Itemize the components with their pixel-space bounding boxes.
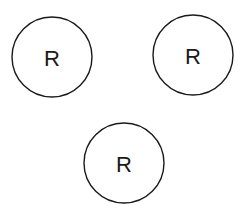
node-label-bottom: R xyxy=(116,152,132,177)
node-right: R xyxy=(153,15,233,95)
node-left: R xyxy=(12,17,92,97)
node-label-left: R xyxy=(44,46,60,71)
diagram-canvas: R R R xyxy=(0,0,243,210)
node-label-right: R xyxy=(185,44,201,69)
node-bottom: R xyxy=(84,123,164,203)
